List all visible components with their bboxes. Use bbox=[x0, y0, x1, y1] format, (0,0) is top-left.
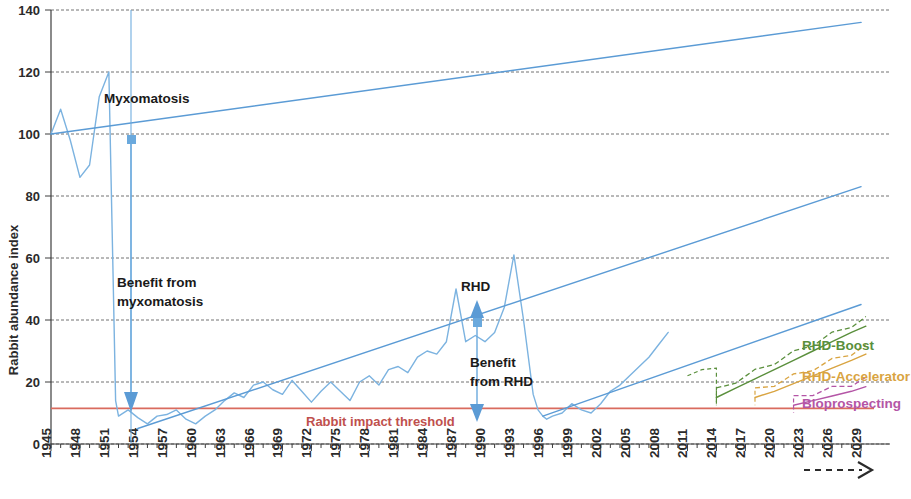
x-tick-label: 1945 bbox=[39, 427, 54, 458]
x-tick-label: 1975 bbox=[328, 427, 343, 458]
x-tick-label: 2029 bbox=[849, 428, 864, 458]
x-tick-label: 1978 bbox=[357, 427, 372, 458]
x-tick-label: 1972 bbox=[299, 428, 314, 458]
annotation-benefit-myxomatosis-line1: Benefit from bbox=[117, 275, 197, 290]
x-tick-label: 2014 bbox=[704, 427, 719, 458]
x-tick-label: 1954 bbox=[126, 427, 141, 458]
chart-background bbox=[0, 0, 911, 499]
x-tick-label: 2023 bbox=[791, 427, 806, 458]
y-tick-label: 100 bbox=[18, 127, 40, 142]
x-axis-tick-labels: 1945194819511954195719601963196619691972… bbox=[39, 427, 864, 458]
x-tick-label: 2008 bbox=[647, 427, 662, 458]
y-tick-label: 20 bbox=[26, 375, 40, 390]
y-tick-label: 40 bbox=[26, 313, 40, 328]
annotation-benefit-rhd-line1: Benefit bbox=[470, 355, 516, 370]
x-tick-label: 1963 bbox=[213, 427, 228, 458]
x-tick-label: 1990 bbox=[473, 428, 488, 458]
x-tick-label: 2017 bbox=[733, 428, 748, 458]
annotation-rhd: RHD bbox=[461, 279, 490, 294]
x-tick-label: 1999 bbox=[560, 428, 575, 458]
annotation-myxomatosis: Myxomatosis bbox=[104, 91, 190, 106]
benefit-myxomatosis-marker-top bbox=[127, 135, 136, 144]
x-tick-label: 2011 bbox=[675, 428, 690, 458]
x-tick-label: 1960 bbox=[184, 428, 199, 458]
annotation-benefit-myxomatosis-line2: myxomatosis bbox=[117, 294, 203, 309]
threshold-label: Rabbit impact threshold bbox=[306, 414, 455, 429]
x-tick-label: 1957 bbox=[155, 428, 170, 458]
x-tick-label: 1951 bbox=[97, 427, 112, 458]
y-tick-label: 80 bbox=[26, 189, 40, 204]
x-tick-label: 1969 bbox=[270, 428, 285, 458]
x-tick-label: 1948 bbox=[68, 427, 83, 458]
scenario-label-bioprospecting: Bioprospecting bbox=[802, 396, 901, 411]
x-tick-label: 1981 bbox=[386, 427, 401, 458]
annotation-benefit-rhd-line2: from RHD bbox=[470, 374, 533, 389]
x-tick-label: 2002 bbox=[589, 428, 604, 458]
y-tick-label: 120 bbox=[18, 65, 40, 80]
x-tick-label: 2026 bbox=[820, 427, 835, 458]
chart-svg: 020406080100120140 194519481951195419571… bbox=[0, 0, 911, 499]
x-tick-label: 1993 bbox=[502, 427, 517, 458]
x-tick-label: 2005 bbox=[618, 427, 633, 458]
scenario-label-rhd-boost: RHD-Boost bbox=[802, 338, 874, 353]
x-tick-label: 2020 bbox=[762, 428, 777, 458]
x-tick-label: 1987 bbox=[444, 428, 459, 458]
x-tick-label: 1966 bbox=[242, 427, 257, 458]
x-tick-label: 1996 bbox=[531, 427, 546, 458]
x-tick-label: 1984 bbox=[415, 427, 430, 458]
rhd-marker bbox=[473, 318, 482, 327]
scenario-label-rhd-accelerator: RHD-Accelerator bbox=[802, 369, 911, 384]
rabbit-abundance-chart: 020406080100120140 194519481951195419571… bbox=[0, 0, 911, 499]
y-axis-title: Rabbit abundance index bbox=[6, 224, 21, 375]
y-tick-label: 140 bbox=[18, 3, 40, 18]
y-tick-label: 60 bbox=[26, 251, 40, 266]
